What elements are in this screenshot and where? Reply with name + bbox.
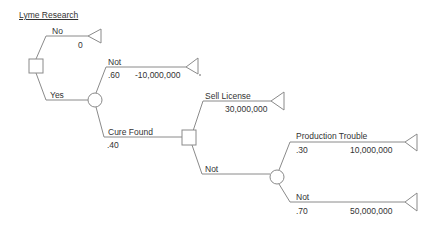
label-no: No [52,26,63,36]
branch-not-sell-line [192,145,270,174]
decision-tree-canvas: Lyme Research No 0 Yes Not .60 -10,000,0… [0,0,437,228]
terminal-prod-trouble-icon [405,134,417,151]
label-cure-found: Cure Found [108,127,153,137]
label-yes: Yes [50,90,64,100]
terminal-not-cure-icon [186,58,198,74]
payoff-sell-license: 30,000,000 [225,104,268,114]
terminal-sell-license-icon [271,92,284,110]
decision-node-license-icon [182,130,196,145]
tree-lines [0,0,437,228]
decision-node-root-icon [29,59,43,73]
prob-cure-found: .40 [107,140,119,150]
label-not-cure: Not [108,57,121,67]
payoff-no: 0 [78,40,83,50]
prob-no-trouble: .70 [296,206,308,216]
payoff-prod-trouble: 10,000,000 [350,145,393,155]
chance-node-cure-icon [88,93,102,107]
terminal-no-trouble-icon [405,193,417,211]
prob-not-cure: .60 [108,70,120,80]
diagram-title: Lyme Research [19,10,78,20]
payoff-not-cure: -10,000,000 [135,70,180,80]
marker-dot [199,74,201,76]
prob-prod-trouble: .30 [296,145,308,155]
label-sell-license: Sell License [205,91,251,101]
label-no-trouble: Not [296,192,309,202]
label-not-sell: Not [205,164,218,174]
payoff-no-trouble: 50,000,000 [350,206,393,216]
chance-node-production-icon [270,170,284,184]
terminal-no-icon [88,29,101,43]
label-prod-trouble: Production Trouble [296,131,367,141]
